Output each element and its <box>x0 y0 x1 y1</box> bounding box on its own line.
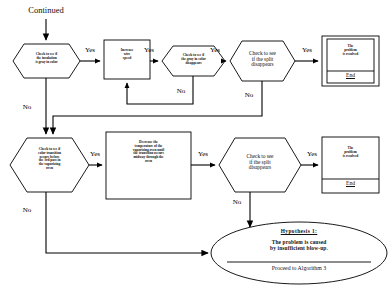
entry-label-continued: Continued <box>18 6 74 15</box>
node-check-split-top-label: Check to see if the split disappears <box>234 51 291 68</box>
node-check-gray-disappears-label: Check to see if the gray in color disapp… <box>164 54 223 65</box>
edge-label-yes-3: Yes <box>204 47 226 54</box>
node-problem-resolved-bottom-end-label: End <box>329 181 372 187</box>
edge-label-no-5: No <box>16 207 38 214</box>
node-problem-resolved-top-end-label: End <box>329 73 372 79</box>
edge-label-yes-6: Yes <box>192 151 214 158</box>
edge-label-yes-2: Yes <box>138 47 160 54</box>
node-hypothesis-proceed-label: Proceed to Algorithm 3 <box>241 265 357 271</box>
node-problem-resolved-bottom-label: The problem is resolved <box>329 147 372 158</box>
node-check-color-transition-label: Check to see if color transition occurs … <box>15 148 84 171</box>
edge-label-yes-5: Yes <box>84 151 106 158</box>
node-hypothesis-body: The problem is caused by insufficient bl… <box>238 240 360 251</box>
edge-label-yes-1: Yes <box>79 47 101 54</box>
node-decrease-temperature-label: Decrease the temperature of the vaporizi… <box>108 141 189 164</box>
edge-split-top-no-to-color-transition <box>53 81 262 134</box>
edge-label-yes-4: Yes <box>296 47 318 54</box>
node-problem-resolved-top-label: The problem is resolved <box>329 45 372 56</box>
edge-label-no-4: No <box>226 199 248 206</box>
edge-label-no-1: No <box>170 88 192 95</box>
edge-label-no-2: No <box>16 104 38 111</box>
node-check-split-bottom-label: Check to see if the split disappears <box>231 154 289 171</box>
edge-color-transition-no-to-hypothesis <box>46 192 208 253</box>
flowchart-canvas: Continued Check to see if the insulation… <box>0 0 390 291</box>
node-check-insulation-gray-label: Check to see if the insulation is gray i… <box>16 53 77 64</box>
edge-label-no-3: No <box>238 92 260 99</box>
node-hypothesis-title: Hypothesis 1: <box>250 229 348 235</box>
edge-label-yes-7: Yes <box>301 151 323 158</box>
